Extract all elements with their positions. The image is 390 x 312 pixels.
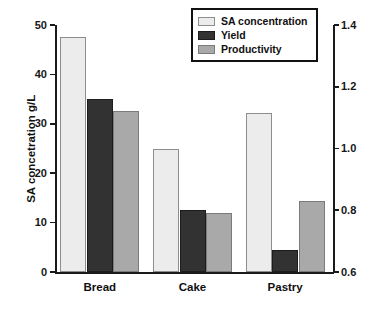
bar-yield[interactable] <box>180 210 206 272</box>
left-axis-tick-label: 0 <box>21 267 47 278</box>
bar-prod[interactable] <box>206 213 232 272</box>
right-axis-tick-label: 1.2 <box>341 81 356 92</box>
right-axis-tick-label: 0.6 <box>341 267 356 278</box>
legend-swatch-icon <box>198 31 215 40</box>
bar-yield[interactable] <box>87 99 113 272</box>
bar-group <box>153 25 232 272</box>
bar-group <box>60 25 139 272</box>
right-axis-tick <box>334 86 339 88</box>
right-axis-tick <box>334 148 339 150</box>
category-label-pastry: Pastry <box>246 281 325 293</box>
left-axis-tick <box>50 74 55 76</box>
legend-item[interactable]: SA concentration <box>198 14 308 28</box>
left-axis-tick <box>50 172 55 174</box>
right-axis-tick <box>334 24 339 26</box>
bar-group <box>246 25 325 272</box>
bar-prod[interactable] <box>299 201 325 272</box>
bar-sa[interactable] <box>60 37 86 272</box>
right-axis-tick-label: 0.8 <box>341 205 356 216</box>
legend-swatch-icon <box>198 17 215 26</box>
bar-yield[interactable] <box>272 250 298 272</box>
legend-item[interactable]: Productivity <box>198 42 308 56</box>
chart-legend: SA concentrationYieldProductivity <box>191 8 318 62</box>
left-axis-tick <box>50 24 55 26</box>
left-axis-tick <box>50 123 55 125</box>
left-axis-tick-label: 50 <box>21 20 47 31</box>
left-axis-tick <box>50 271 55 273</box>
bar-chart: 01020304050 0.60.81.01.21.4 SA concetrat… <box>0 0 390 312</box>
bar-sa[interactable] <box>246 113 272 272</box>
category-label-cake: Cake <box>153 281 232 293</box>
bar-prod[interactable] <box>113 111 139 272</box>
legend-label: Productivity <box>221 44 282 55</box>
left-y-axis-title: SA concetration g/L <box>26 69 38 229</box>
legend-label: SA concentration <box>221 16 308 27</box>
legend-swatch-icon <box>198 45 215 54</box>
legend-item[interactable]: Yield <box>198 28 308 42</box>
right-axis-tick-label: 1.0 <box>341 143 356 154</box>
plot-area <box>56 25 334 272</box>
right-axis-tick <box>334 271 339 273</box>
bar-sa[interactable] <box>153 149 179 273</box>
left-axis-tick <box>50 222 55 224</box>
right-axis-tick <box>334 209 339 211</box>
right-axis-tick-label: 1.4 <box>341 20 356 31</box>
category-label-bread: Bread <box>60 281 139 293</box>
legend-label: Yield <box>221 30 246 41</box>
